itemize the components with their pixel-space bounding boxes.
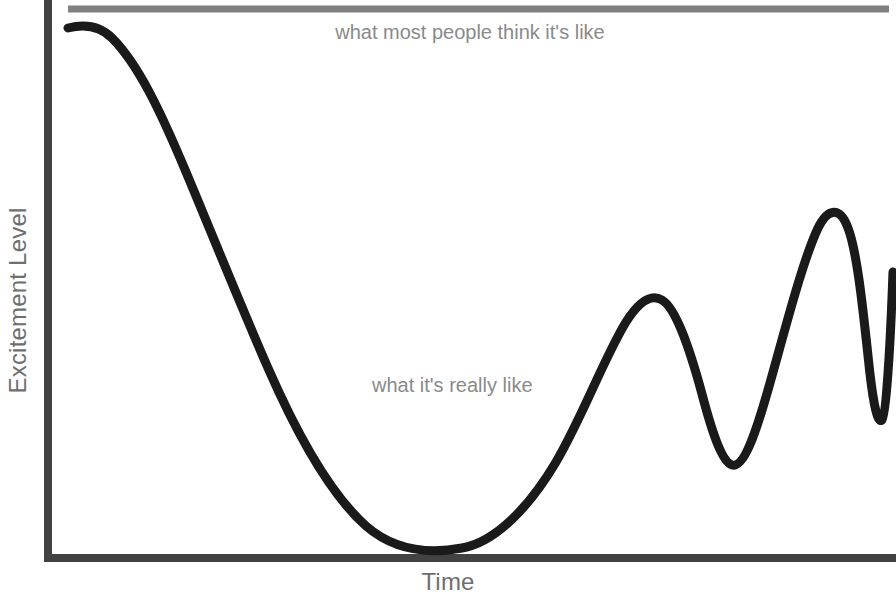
chart-container: Excitement Level Time what most people t… — [0, 0, 896, 601]
reality-series-curve — [68, 26, 893, 551]
x-axis-title: Time — [0, 568, 896, 596]
y-axis-title: Excitement Level — [0, 0, 36, 601]
expectation-series-label: what most people think it's like — [0, 21, 896, 44]
reality-series-label: what it's really like — [372, 374, 533, 397]
expectation-vs-reality-chart — [0, 0, 896, 601]
